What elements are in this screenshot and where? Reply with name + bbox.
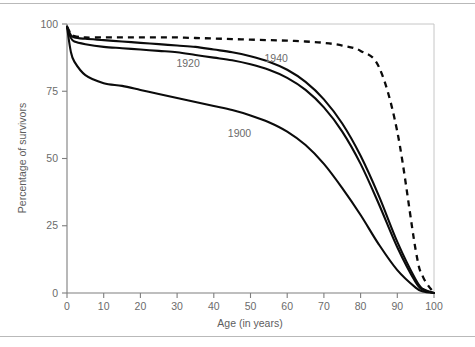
y-tick-label: 75 [46, 85, 58, 97]
y-tick-label: 50 [46, 152, 58, 164]
x-tick-label: 20 [135, 300, 147, 312]
y-tick-label: 25 [46, 219, 58, 231]
curve-group [67, 27, 434, 293]
x-axis-title: Age (in years) [217, 317, 282, 329]
curve-label-1900: 1900 [228, 127, 252, 139]
curve-label-1940: 1940 [265, 52, 289, 64]
page-rule-bottom [0, 336, 475, 337]
curve-label-group: 190019201940 [176, 52, 288, 139]
curve-label-1920: 1920 [176, 57, 200, 69]
x-axis-ticks [67, 293, 434, 298]
y-tick-label: 100 [40, 18, 58, 30]
y-axis-tick-labels: 0255075100 [40, 18, 58, 299]
curve-ideal [67, 27, 434, 293]
x-tick-label: 50 [245, 300, 257, 312]
x-tick-label: 100 [425, 300, 443, 312]
x-tick-label: 80 [355, 300, 367, 312]
x-tick-label: 60 [281, 300, 293, 312]
x-tick-label: 10 [98, 300, 110, 312]
x-tick-label: 70 [318, 300, 330, 312]
page-rule-top [0, 3, 475, 4]
x-tick-label: 0 [64, 300, 70, 312]
chart-canvas: 0255075100 0102030405060708090100 190019… [0, 0, 475, 347]
x-tick-label: 90 [391, 300, 403, 312]
x-tick-label: 40 [208, 300, 220, 312]
survival-curve-figure: 0255075100 0102030405060708090100 190019… [0, 0, 475, 347]
x-axis-tick-labels: 0102030405060708090100 [64, 300, 443, 312]
y-axis-ticks [62, 24, 67, 293]
x-tick-label: 30 [171, 300, 183, 312]
y-axis-title: Percentage of survivors [16, 103, 28, 213]
y-tick-label: 0 [52, 287, 58, 299]
